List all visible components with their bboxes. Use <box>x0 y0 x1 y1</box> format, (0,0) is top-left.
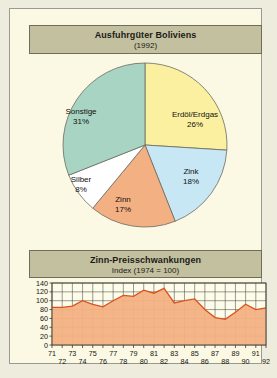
pie-label-sonstige: Sonstige 31% <box>51 107 111 126</box>
y-tick-label: 120 <box>36 287 48 296</box>
pie-chart-title-plaque: Ausfuhrgüter Boliviens (1992) <box>29 25 262 54</box>
pie-label-zink-name: Zink <box>169 167 213 177</box>
pie-label-erdoel-erdgas: Erdöl/Erdgas 26% <box>157 110 233 129</box>
pie-label-silber-value: 8% <box>57 185 105 195</box>
x-tick-label: 85 <box>191 349 199 358</box>
pie-label-erdoel-erdgas-name: Erdöl/Erdgas <box>157 110 233 120</box>
y-tick-label: 40 <box>40 323 48 332</box>
pie-label-zink-value: 18% <box>169 177 213 187</box>
x-tick-label: 86 <box>201 357 209 366</box>
x-tick-label: 81 <box>150 349 158 358</box>
pie-label-silber: Silber 8% <box>57 175 105 194</box>
x-tick-label: 83 <box>170 349 178 358</box>
y-tick-label: 60 <box>40 314 48 323</box>
pie-label-zinn-name: Zinn <box>101 195 145 205</box>
line-chart-title-plaque: Zinn-Preisschwankungen Index (1974 = 100… <box>29 250 262 278</box>
y-tick-label: 100 <box>36 296 48 305</box>
pie-label-zinn-value: 17% <box>101 205 145 215</box>
pie-label-sonstige-value: 31% <box>51 117 111 127</box>
x-tick-label: 80 <box>140 357 148 366</box>
pie-chart: Erdöl/Erdgas 26% Zink 18% Zinn 17% Silbe… <box>29 57 262 245</box>
x-tick-label: 88 <box>221 357 229 366</box>
line-chart: 020406080100120140 717273747576777879808… <box>24 279 272 371</box>
x-tick-label: 77 <box>109 349 117 358</box>
y-tick-label: 20 <box>40 332 48 341</box>
x-tick-label: 84 <box>180 357 188 366</box>
y-tick-label: 80 <box>40 305 48 314</box>
pie-chart-subtitle: (1992) <box>30 41 261 51</box>
y-tick-label: 140 <box>36 279 48 288</box>
pie-chart-title: Ausfuhrgüter Boliviens <box>30 30 261 41</box>
x-tick-label: 90 <box>242 357 250 366</box>
x-tick-label: 89 <box>231 349 239 358</box>
x-tick-label: 92 <box>262 357 270 366</box>
x-tick-label: 71 <box>48 349 56 358</box>
pie-label-zinn: Zinn 17% <box>101 195 145 214</box>
line-chart-svg: 020406080100120140 717273747576777879808… <box>24 279 272 371</box>
line-chart-title: Zinn-Preisschwankungen <box>30 255 261 266</box>
x-tick-label: 73 <box>68 349 76 358</box>
x-tick-label: 75 <box>89 349 97 358</box>
x-tick-label: 82 <box>160 357 168 366</box>
pie-chart-svg <box>29 57 262 245</box>
pie-label-zink: Zink 18% <box>169 167 213 186</box>
line-chart-subtitle: Index (1974 = 100) <box>30 266 261 276</box>
x-tick-label: 78 <box>119 357 127 366</box>
x-tick-label: 91 <box>252 349 260 358</box>
line-chart-x-tick-labels: 7172737475767778798081828384858687888990… <box>48 349 270 366</box>
x-tick-label: 72 <box>58 357 66 366</box>
x-tick-label: 74 <box>79 357 87 366</box>
pie-label-silber-name: Silber <box>57 175 105 185</box>
pie-label-erdoel-erdgas-value: 26% <box>157 120 233 130</box>
x-tick-label: 87 <box>211 349 219 358</box>
figure-page: Ausfuhrgüter Boliviens (1992) Erdöl/Erdg… <box>0 0 277 378</box>
pie-slice-erd-l-erdgas <box>145 63 227 150</box>
x-tick-label: 76 <box>99 357 107 366</box>
pie-slice-group <box>63 63 227 227</box>
pie-label-sonstige-name: Sonstige <box>51 107 111 117</box>
figure-plate: Ausfuhrgüter Boliviens (1992) Erdöl/Erdg… <box>9 8 262 364</box>
line-chart-y-tick-labels: 020406080100120140 <box>36 279 48 350</box>
x-tick-label: 79 <box>130 349 138 358</box>
